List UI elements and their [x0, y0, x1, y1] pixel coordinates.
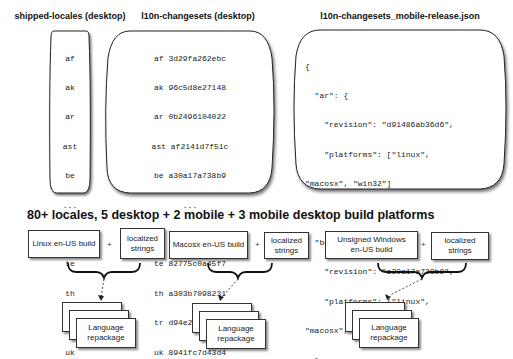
language-repackage-card: Language repackage [359, 318, 419, 348]
localized-strings-box: localized strings [264, 232, 309, 259]
list-item: be a30a17a738b9 [100, 171, 280, 181]
localized-strings-box: localized strings [120, 228, 165, 259]
list-item: ak [48, 83, 92, 93]
language-repackage-card: Language repackage [206, 319, 266, 349]
list-item: af [48, 54, 92, 64]
brace-connector [370, 262, 510, 302]
json-line: }, [305, 356, 505, 359]
plus-sign: + [255, 240, 260, 249]
list-item: uk [48, 348, 92, 358]
shipped-locales-title: shipped-locales (desktop) [6, 11, 134, 21]
plus-sign: + [421, 240, 426, 249]
plus-sign: + [107, 240, 112, 249]
json-line: "macosx", "win32"] [305, 179, 505, 189]
brace-connector [60, 262, 150, 302]
json-line: "platforms": ["linux", [305, 150, 505, 160]
windows-build-box: Unsigned Windows en-US build [325, 231, 418, 259]
list-item: ast af2141d7f51c [100, 142, 280, 152]
list-item: be [48, 171, 92, 181]
macosx-build-box: Macosx en-US build [169, 231, 248, 259]
brace-connector [200, 262, 320, 302]
list-item: ak 96c5d8e27148 [100, 83, 280, 93]
list-item: af 3d29fa262ebc [100, 54, 280, 64]
json-line: "revision": "d91486ab36d6", [305, 120, 505, 130]
changesets-title: l10n-changesets (desktop) [118, 11, 278, 21]
json-line: { [305, 62, 505, 72]
linux-build-box: Linux en-US build [28, 230, 100, 258]
language-repackage-card: Language repackage [76, 318, 136, 348]
section-title: 80+ locales, 5 desktop + 2 mobile + 3 mo… [27, 208, 434, 222]
list-item: ast [48, 142, 92, 152]
list-item: ar 0b2496104022 [100, 112, 280, 122]
list-item: ar [48, 112, 92, 122]
localized-strings-box: localized strings [431, 232, 489, 260]
mobile-json-title: l10n-changesets_mobile-release.json [300, 11, 500, 21]
json-line: "ar": { [305, 91, 505, 101]
